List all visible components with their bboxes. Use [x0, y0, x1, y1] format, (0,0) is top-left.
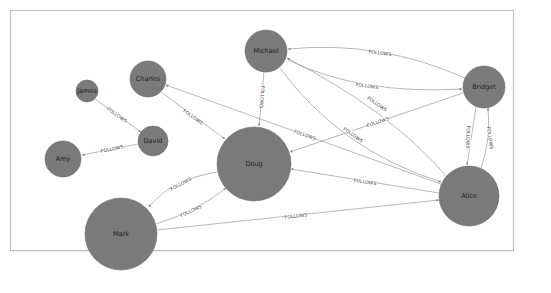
node-label-alice: Alice: [461, 192, 477, 200]
edge-label-james-david: FOLLOWS: [106, 106, 128, 123]
node-bridget[interactable]: Bridget: [463, 66, 505, 108]
edge-label-alice-bridget: FOLLOWS: [486, 126, 494, 149]
edge-label-alice-michael: FOLLOWS: [366, 95, 388, 112]
edge-label-bridget-alice: FOLLOWS: [465, 125, 471, 148]
edge-label-mark-alice: FOLLOWS: [284, 212, 307, 219]
node-doug[interactable]: Doug: [217, 127, 291, 201]
node-michael[interactable]: Michael: [245, 30, 287, 72]
edge-mark-doug[interactable]: [156, 188, 226, 224]
edge-label-doug-mark: FOLLOWS: [170, 176, 193, 191]
node-james[interactable]: James: [76, 80, 98, 102]
edge-label-michael-alice: FOLLOWS: [342, 126, 364, 143]
edge-label-michael-bridget: FOLLOWS: [355, 82, 378, 90]
node-label-charles: Charles: [136, 75, 161, 83]
node-david[interactable]: David: [138, 126, 168, 156]
node-label-bridget: Bridget: [472, 83, 496, 91]
node-label-amy: Amy: [56, 155, 71, 163]
edge-label-charles-doug: FOLLOWS: [182, 108, 204, 126]
edge-label-alice-doug: FOLLOWS: [353, 178, 376, 187]
node-label-mark: Mark: [113, 230, 129, 238]
edge-label-bridget-doug: FOLLOWS: [366, 116, 389, 128]
edge-label-mark-doug: FOLLOWS: [180, 204, 203, 218]
node-amy[interactable]: Amy: [45, 141, 81, 177]
node-label-david: David: [144, 137, 163, 145]
edge-label-michael-doug: FOLLOWS: [259, 85, 266, 108]
node-label-michael: Michael: [254, 47, 279, 55]
edge-alice-michael[interactable]: [287, 58, 447, 177]
edge-label-david-amy: FOLLOWS: [100, 144, 124, 154]
node-charles[interactable]: Charles: [130, 61, 166, 97]
node-mark[interactable]: Mark: [85, 198, 157, 270]
edge-label-bridget-michael: FOLLOWS: [368, 49, 391, 57]
node-label-doug: Doug: [245, 160, 262, 168]
node-alice[interactable]: Alice: [439, 166, 499, 226]
edge-label-alice-charles: FOLLOWS: [293, 129, 316, 142]
node-label-james: James: [76, 87, 97, 95]
graph-canvas[interactable]: FOLLOWS FOLLOWS FOLLOWS FOLLOWS FOLLOWS …: [0, 0, 551, 293]
